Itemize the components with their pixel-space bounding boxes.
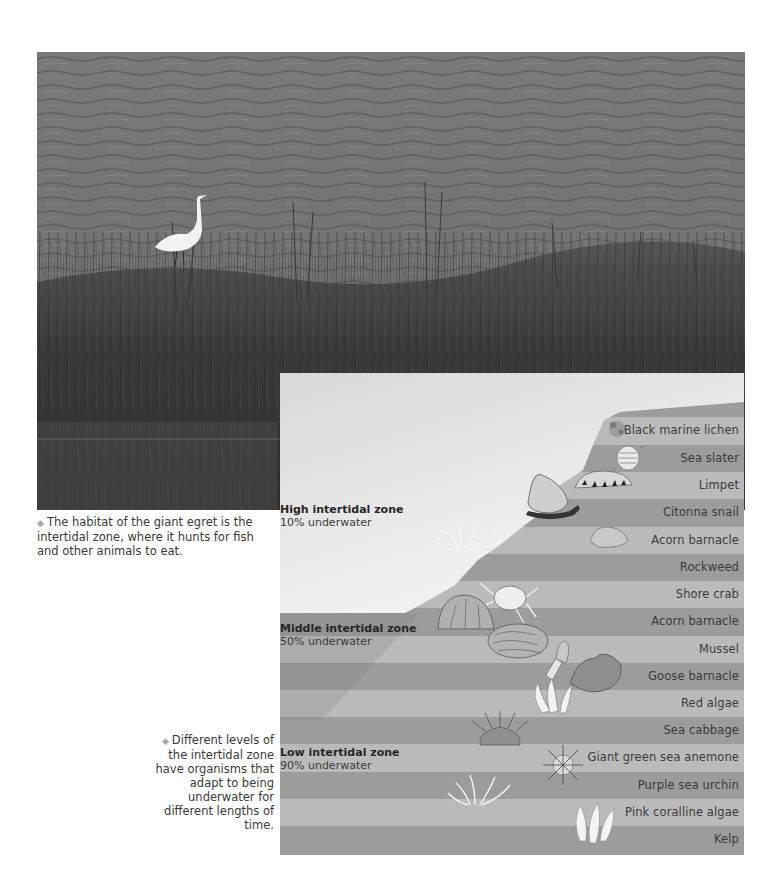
organism-label-red-algae: Red algae — [681, 690, 739, 717]
photo-caption: ◆The habitat of the giant egret is the i… — [37, 515, 277, 558]
diagram-caption: ◆Different levels of the intertidal zone… — [140, 733, 274, 832]
photo-caption-text: The habitat of the giant egret is the in… — [37, 515, 254, 558]
diamond-bullet-icon: ◆ — [37, 518, 44, 528]
organism-label-mussel: Mussel — [699, 636, 739, 663]
organism-label-pink-coralline-algae: Pink coralline algae — [625, 799, 739, 826]
organism-label-shore-crab: Shore crab — [676, 581, 739, 608]
organism-label-goose-barnacle: Goose barnacle — [648, 663, 739, 690]
zone-middle-percent: 50% underwater — [280, 635, 416, 648]
intertidal-zone-diagram: High intertidal zone 10% underwater Midd… — [280, 373, 744, 855]
organism-label-purple-sea-urchin: Purple sea urchin — [638, 772, 739, 799]
zone-middle: Middle intertidal zone 50% underwater — [280, 622, 416, 648]
zone-low-name: Low intertidal zone — [280, 746, 399, 759]
organism-label-citonna-snail: Citonna snail — [663, 499, 739, 526]
zone-low-percent: 90% underwater — [280, 759, 399, 772]
lichen-icon — [609, 421, 625, 437]
zone-low: Low intertidal zone 90% underwater — [280, 746, 399, 772]
zone-high-percent: 10% underwater — [280, 516, 403, 529]
diamond-bullet-icon: ◆ — [162, 736, 169, 746]
zone-high-name: High intertidal zone — [280, 503, 403, 516]
urchin-icon — [543, 745, 583, 785]
mussel-icon — [488, 624, 548, 658]
organism-label-rockweed: Rockweed — [680, 554, 739, 581]
organism-label-kelp: Kelp — [714, 826, 739, 853]
zone-middle-name: Middle intertidal zone — [280, 622, 416, 635]
organism-label-acorn-barnacle-high: Acorn barnacle — [651, 527, 739, 554]
organism-label-limpet: Limpet — [699, 472, 739, 499]
organism-label-acorn-barnacle-middle: Acorn barnacle — [651, 608, 739, 635]
organism-label-giant-green-sea-anemone: Giant green sea anemone — [587, 744, 739, 771]
organism-label-black-marine-lichen: Black marine lichen — [624, 417, 739, 444]
organism-label-sea-cabbage: Sea cabbage — [663, 717, 739, 744]
zone-high: High intertidal zone 10% underwater — [280, 503, 403, 529]
diagram-caption-text: Different levels of the intertidal zone … — [156, 733, 274, 832]
organism-label-sea-slater: Sea slater — [680, 445, 739, 472]
